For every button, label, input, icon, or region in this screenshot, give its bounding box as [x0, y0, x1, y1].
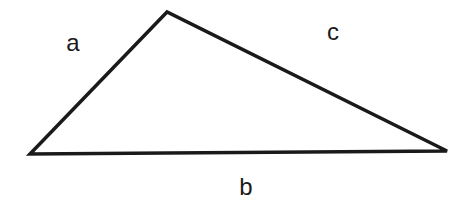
triangle-shape: [30, 12, 447, 154]
side-label-a: a: [66, 29, 80, 56]
side-label-c: c: [327, 18, 339, 45]
triangle-diagram: a b c: [0, 0, 469, 209]
triangle-svg: a b c: [0, 0, 469, 209]
side-label-b: b: [239, 173, 252, 200]
